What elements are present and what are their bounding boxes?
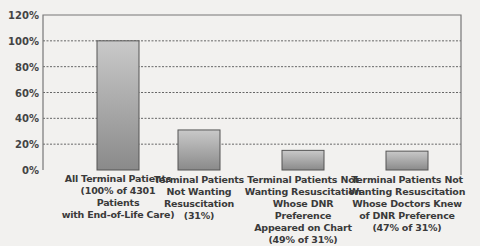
y-tick-label: 40% — [15, 113, 39, 124]
bar — [97, 41, 139, 170]
bar — [386, 151, 428, 170]
x-category-label-line: (47% of 31%) — [348, 222, 466, 234]
y-tick-label: 80% — [15, 62, 39, 73]
y-tick-label: 0% — [22, 165, 39, 176]
bar — [282, 150, 324, 170]
bars — [97, 41, 428, 170]
x-category-label-line: Wanting Resuscitation — [244, 186, 362, 198]
x-category-label-line: (49% of 31%) — [244, 234, 362, 246]
y-tick-label: 100% — [8, 36, 39, 47]
x-category-label-line: (31%) — [140, 210, 258, 222]
x-category-label-line: Whose DNR Preference — [244, 198, 362, 222]
x-category-label-line: Appeared on Chart — [244, 222, 362, 234]
x-category-label-line: Terminal Patients Not — [348, 174, 466, 186]
x-category-label-line: Terminal Patients Not — [244, 174, 362, 186]
x-category-label: Terminal Patients NotWanting Resuscitati… — [244, 174, 362, 246]
x-category-label-line: Whose Doctors Knew — [348, 198, 466, 210]
x-category-label: Terminal Patients NotWanting Resuscitati… — [348, 174, 466, 234]
y-tick-label: 60% — [15, 88, 39, 99]
y-tick-label: 20% — [15, 139, 39, 150]
x-category-label-line: Not Wanting — [140, 186, 258, 198]
y-axis-ticks: 0%20%40%60%80%100%120% — [8, 10, 39, 176]
x-category-label-line: Resuscitation — [140, 198, 258, 210]
y-tick-label: 120% — [8, 10, 39, 21]
bar — [178, 130, 220, 170]
x-category-label-line: Terminal Patients — [140, 174, 258, 186]
x-category-label-line: Wanting Resuscitation — [348, 186, 466, 198]
x-category-label-line: of DNR Preference — [348, 210, 466, 222]
x-category-label: Terminal PatientsNot WantingResuscitatio… — [140, 174, 258, 222]
